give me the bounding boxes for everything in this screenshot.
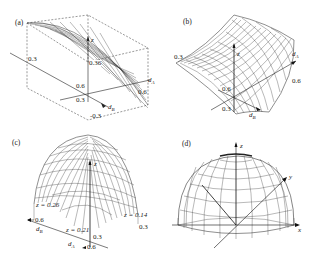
panel-b: (b) z 0.3 0.6 0.6 0.3 dA dB [156, 0, 312, 130]
axis-label-y: y [289, 174, 292, 181]
axis-label-dB: dB [36, 226, 43, 235]
annotation-z-021: z = 0.21 [66, 227, 89, 234]
axis-label-z: z [240, 143, 243, 150]
surface-plot-a [0, 0, 156, 130]
surface-plot-b [156, 0, 312, 130]
tick-label: 0.6 [76, 83, 85, 90]
axis-label-dA: dA [292, 51, 299, 60]
axis-label-dA: dA [148, 77, 155, 86]
panel-a: (a) z 0.3 0.36 0.6 0.3 0.6 -0.3 dB dA [0, 0, 156, 130]
tick-label: 0.3 [174, 54, 183, 61]
axis-label-z: z [94, 161, 97, 168]
panel-d: (d) z y x [156, 130, 312, 260]
tick-label: 0.6 [87, 244, 96, 251]
panel-label-b: (b) [183, 17, 192, 26]
tick-label: 0.3 [222, 106, 231, 113]
tick-label: 0.3 [28, 56, 37, 63]
axis-label-x: x [298, 227, 301, 234]
panel-label-d: (d) [182, 139, 191, 148]
sphere-plot-d [156, 130, 312, 260]
surface-plot-c [0, 130, 156, 260]
axis-label-dB: dB [249, 112, 256, 121]
tick-label: 0.6 [138, 89, 147, 96]
panel-label-c: (c) [12, 138, 20, 147]
axis-label-dB: dB [108, 104, 115, 113]
tick-label: 0.6 [35, 217, 44, 224]
axis-label-z: z [237, 51, 240, 58]
annotation-z-014: z = 0.14 [124, 212, 147, 219]
tick-label: 0.6 [292, 78, 301, 85]
tick-label: 0.36 [89, 60, 101, 67]
tick-label: 0.3 [93, 234, 102, 241]
tick-label: -0.3 [90, 113, 101, 120]
tick-label: 0.6 [222, 86, 231, 93]
annotation-z-026: z = 0.26 [36, 202, 59, 209]
panel-c: (c) z z = 0.26 z = 0.21 z = 0.14 0.6 0.3… [0, 130, 156, 260]
panel-label-a: (a) [15, 18, 23, 27]
axis-label-dA: dA [68, 241, 75, 250]
tick-label: 0.3 [76, 97, 85, 104]
tick-label: 0.3 [139, 224, 148, 231]
axis-label-z: z [91, 37, 94, 44]
